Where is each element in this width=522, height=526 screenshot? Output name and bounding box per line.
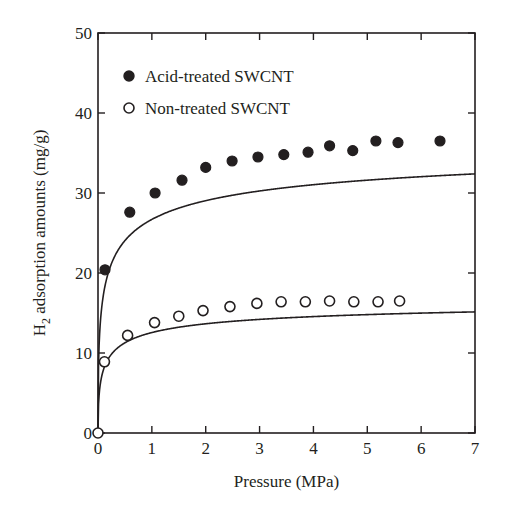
data-point-non-treated <box>123 330 133 340</box>
data-point-acid-treated <box>279 150 289 160</box>
x-tick-label: 1 <box>148 439 157 458</box>
data-point-non-treated <box>252 298 262 308</box>
data-point-non-treated <box>395 296 405 306</box>
legend-marker-acid-treated <box>124 71 134 81</box>
data-point-acid-treated <box>177 175 187 185</box>
y-tick-label: 30 <box>75 184 92 203</box>
axis-ticks <box>98 33 475 433</box>
x-tick-labels: 01234567 <box>94 439 480 458</box>
data-point-non-treated <box>150 318 160 328</box>
y-tick-label: 0 <box>84 424 93 443</box>
data-point-non-treated <box>276 297 286 307</box>
x-tick-label: 7 <box>471 439 480 458</box>
data-point-non-treated <box>99 357 109 367</box>
data-point-non-treated <box>300 297 310 307</box>
data-point-acid-treated <box>125 207 135 217</box>
y-tick-label: 50 <box>75 24 92 43</box>
data-point-acid-treated <box>348 146 358 156</box>
data-point-acid-treated <box>201 162 211 172</box>
legend-label-acid-treated: Acid-treated SWCNT <box>145 67 294 86</box>
data-point-non-treated <box>198 306 208 316</box>
data-point-acid-treated <box>325 141 335 151</box>
y-tick-label: 10 <box>75 344 92 363</box>
x-tick-label: 2 <box>201 439 210 458</box>
fit-curve-non-treated <box>98 312 475 433</box>
data-point-acid-treated <box>393 138 403 148</box>
x-tick-label: 5 <box>363 439 372 458</box>
x-tick-label: 3 <box>255 439 264 458</box>
data-point-non-treated <box>225 302 235 312</box>
y-tick-label: 20 <box>75 264 92 283</box>
data-point-acid-treated <box>100 265 110 275</box>
data-point-acid-treated <box>303 147 313 157</box>
data-point-acid-treated <box>150 188 160 198</box>
data-point-acid-treated <box>227 156 237 166</box>
x-tick-label: 0 <box>94 439 103 458</box>
x-axis-title: Pressure (MPa) <box>234 472 339 491</box>
data-point-non-treated <box>174 311 184 321</box>
data-point-acid-treated <box>371 136 381 146</box>
y-axis-title: H2 adsorption amounts (mg/g) <box>30 130 53 337</box>
data-point-non-treated <box>93 428 103 438</box>
data-points <box>93 136 445 438</box>
data-point-non-treated <box>325 296 335 306</box>
data-point-non-treated <box>373 297 383 307</box>
data-point-non-treated <box>349 297 359 307</box>
legend-label-non-treated: Non-treated SWCNT <box>145 99 291 118</box>
legend-marker-non-treated <box>124 103 134 113</box>
data-point-acid-treated <box>253 152 263 162</box>
x-tick-label: 6 <box>417 439 426 458</box>
adsorption-chart: 01234567 01020304050 Pressure (MPa) H2 a… <box>0 0 522 526</box>
y-tick-label: 40 <box>75 104 92 123</box>
data-point-acid-treated <box>435 136 445 146</box>
x-tick-label: 4 <box>309 439 318 458</box>
legend: Acid-treated SWCNT Non-treated SWCNT <box>124 67 294 118</box>
plot-frame <box>98 33 475 433</box>
y-tick-labels: 01020304050 <box>75 24 92 443</box>
